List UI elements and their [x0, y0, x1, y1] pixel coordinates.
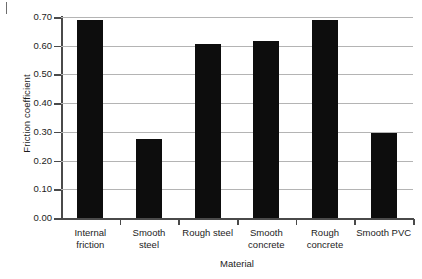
- x-axis-tick-mark: [413, 219, 415, 225]
- x-axis-category-label-line: concrete: [290, 239, 361, 251]
- y-axis-tick-mark: [54, 103, 61, 105]
- y-axis-tick-mark: [54, 132, 61, 134]
- gridline: [61, 17, 413, 18]
- y-axis-tick-label: 0.70: [24, 12, 52, 22]
- y-axis-tick-mark: [54, 17, 61, 19]
- x-axis-category-labels: InternalfrictionSmoothsteelRough steelSm…: [61, 227, 413, 259]
- gridline: [61, 132, 413, 133]
- y-axis-tick-label: 0.50: [24, 70, 52, 80]
- bar: [253, 41, 279, 218]
- y-axis-tick-mark: [54, 161, 61, 163]
- y-axis-tick-labels: 0.000.100.200.300.400.500.600.70: [22, 0, 52, 279]
- gridline: [61, 103, 413, 104]
- x-axis-tick-mark: [296, 219, 298, 225]
- x-axis-category-label-line: steel: [114, 239, 185, 251]
- gridline: [61, 189, 413, 190]
- y-axis-tick-label: 0.60: [24, 41, 52, 51]
- y-axis-tick-label: 0.40: [24, 98, 52, 108]
- bar: [312, 20, 338, 218]
- bar-chart-figure: Friction coefficient 0.000.100.200.300.4…: [0, 0, 422, 279]
- x-axis-tick-mark: [178, 219, 180, 225]
- y-axis-tick-label: 0.20: [24, 156, 52, 166]
- y-axis-tick-mark: [54, 189, 61, 191]
- x-axis-category-label: Smooth PVC: [348, 227, 419, 239]
- bar: [136, 139, 162, 218]
- x-axis-tick-mark: [354, 219, 356, 225]
- y-axis-tick-label: 0.30: [24, 127, 52, 137]
- y-axis-tick-mark: [54, 46, 61, 48]
- x-axis-tick-mark: [120, 219, 122, 225]
- bar: [77, 20, 103, 218]
- y-axis-tick-mark: [54, 218, 61, 220]
- y-axis-tick-label: 0.00: [24, 213, 52, 223]
- y-axis-tick-label: 0.10: [24, 185, 52, 195]
- x-axis-category-label-line: Smooth PVC: [348, 227, 419, 239]
- bar: [195, 44, 221, 218]
- gridline: [61, 161, 413, 162]
- gridline: [61, 46, 413, 47]
- scan-artifact-mark: [6, 2, 7, 14]
- x-axis-tick-mark: [237, 219, 239, 225]
- plot-area: [61, 17, 413, 218]
- y-axis-tick-mark: [54, 74, 61, 76]
- x-axis-title: Material: [61, 258, 413, 269]
- bar: [371, 133, 397, 218]
- gridline: [61, 74, 413, 75]
